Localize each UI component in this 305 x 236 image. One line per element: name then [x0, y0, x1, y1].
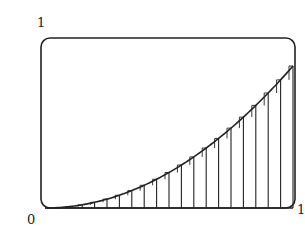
x-axis-label-one: 1 — [297, 203, 305, 216]
riemann-sum-figure — [0, 0, 305, 236]
y-axis-label-one: 1 — [37, 16, 45, 29]
origin-label-zero: 0 — [27, 213, 35, 226]
plot-frame — [41, 38, 295, 208]
riemann-strips — [45, 66, 293, 208]
